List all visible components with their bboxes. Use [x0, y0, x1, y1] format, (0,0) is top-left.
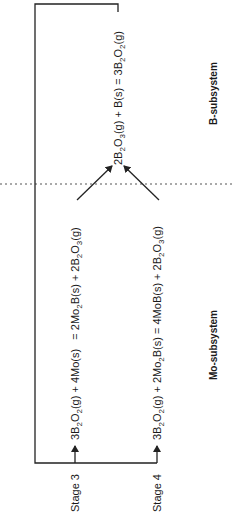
stage-4-reaction: 3B2O2(g) + 2Mo2B(s) = 4MoB(s) + 2B2O3(g) [151, 226, 166, 440]
stage-3-to-b-arrow [77, 166, 112, 200]
feedback-loop-line [35, 4, 157, 463]
mo-subsystem-label: Mo-subsystem [208, 310, 219, 380]
b-subsystem-reaction: 2B2O3(g) + B(s) = 3B2O2(g) [112, 31, 127, 165]
b-subsystem-label: B-subsystem [208, 62, 219, 125]
stage-3-reaction: 3B2O2(g) + 4Mo(s) = 2Mo2B(s) + 2B2O3(g) [69, 227, 84, 440]
stage-4-to-b-arrow [124, 166, 159, 200]
stage-4-label: Stage 4 [151, 474, 163, 512]
reaction-cycle-diagram: 3B2O2(g) + 4Mo(s) = 2Mo2B(s) + 2B2O3(g) … [0, 0, 233, 514]
stage-3-label: Stage 3 [69, 474, 81, 512]
